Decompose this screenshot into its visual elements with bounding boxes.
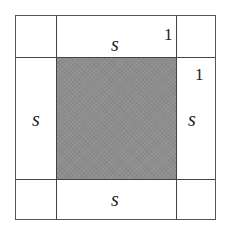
left-strip-length-label: s xyxy=(32,109,40,129)
bottom-inner-divider xyxy=(16,179,215,180)
right-inner-divider xyxy=(176,16,177,219)
top-inner-divider xyxy=(16,57,215,58)
top-strip-length-label: s xyxy=(111,34,119,54)
top-strip-width-label: 1 xyxy=(164,26,173,43)
partitioned-square-figure: s 1 1 s s s xyxy=(15,15,216,220)
bottom-strip-length-label: s xyxy=(111,189,119,209)
right-strip-length-label: s xyxy=(188,109,196,129)
shaded-center-square xyxy=(56,57,177,180)
right-strip-width-label: 1 xyxy=(195,66,204,83)
left-inner-divider xyxy=(56,16,57,219)
